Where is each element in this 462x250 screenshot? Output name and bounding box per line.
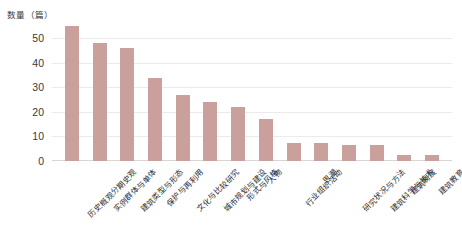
bar[interactable] xyxy=(314,143,328,161)
bar-slot xyxy=(86,26,114,161)
y-tick-label: 20 xyxy=(0,106,44,118)
bar-slot xyxy=(363,26,391,161)
bar-slot xyxy=(58,26,86,161)
x-label-slot: 建筑科学与技术 xyxy=(363,164,391,250)
bar[interactable] xyxy=(93,43,107,161)
x-axis-tick-labels: 历史概观分期史观实例群体与单体建筑类型与形态保护与再利用文化与比较研究城市规划与… xyxy=(52,164,452,250)
x-label-slot: 文化与比较研究 xyxy=(169,164,197,250)
x-label-slot: 行业组织活动 xyxy=(280,164,308,250)
bar[interactable] xyxy=(342,145,356,161)
x-label-slot: 保护与再利用 xyxy=(141,164,169,250)
bar-chart: 数量（篇） 历史概观分期史观实例群体与单体建筑类型与形态保护与再利用文化与比较研… xyxy=(0,0,462,250)
bar[interactable] xyxy=(120,48,134,161)
plot-area xyxy=(52,26,452,161)
y-tick-label: 0 xyxy=(0,155,44,167)
bar[interactable] xyxy=(287,143,301,161)
y-tick-label: 50 xyxy=(0,32,44,44)
bar-slot xyxy=(141,26,169,161)
x-label-slot: 实例群体与单体 xyxy=(86,164,114,250)
x-label-slot: 思潮 xyxy=(307,164,335,250)
bar[interactable] xyxy=(425,155,439,161)
bar-slot xyxy=(391,26,419,161)
bar-slot xyxy=(307,26,335,161)
bar[interactable] xyxy=(259,119,273,161)
x-label-slot: 建筑类型与形态 xyxy=(113,164,141,250)
bar-slot xyxy=(197,26,225,161)
bar-slot xyxy=(169,26,197,161)
bar[interactable] xyxy=(203,102,217,161)
x-label-slot: 历史概观分期史观 xyxy=(58,164,86,250)
x-tick-label: 建筑教育 xyxy=(436,166,462,197)
x-label-slot: 建筑制度 xyxy=(391,164,419,250)
x-label-slot: 研究状况与方法 xyxy=(335,164,363,250)
x-label-slot: 形式与风格 xyxy=(224,164,252,250)
bar[interactable] xyxy=(148,78,162,161)
y-tick-label: 10 xyxy=(0,130,44,142)
bar[interactable] xyxy=(65,26,79,161)
bar-slot xyxy=(335,26,363,161)
bar-slot xyxy=(113,26,141,161)
y-tick-label: 30 xyxy=(0,81,44,93)
y-axis-title: 数量（篇） xyxy=(7,8,54,20)
x-label-slot: 城市规划与建设 xyxy=(197,164,225,250)
bar-slot xyxy=(224,26,252,161)
bars-group xyxy=(52,26,452,161)
bar-slot xyxy=(280,26,308,161)
bar-slot xyxy=(418,26,446,161)
bar[interactable] xyxy=(370,145,384,161)
x-label-slot: 建筑教育 xyxy=(418,164,446,250)
y-tick-label: 40 xyxy=(0,57,44,69)
x-label-slot: 人物 xyxy=(252,164,280,250)
bar[interactable] xyxy=(176,95,190,161)
bar-slot xyxy=(252,26,280,161)
bar[interactable] xyxy=(397,155,411,161)
bar[interactable] xyxy=(231,107,245,161)
